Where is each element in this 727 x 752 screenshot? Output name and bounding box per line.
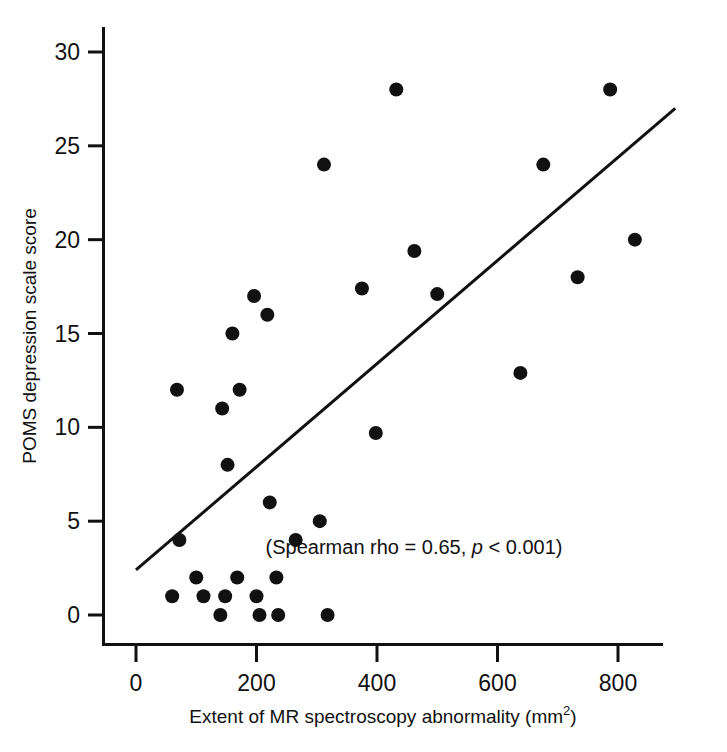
data-point <box>172 533 186 547</box>
data-point <box>317 158 331 172</box>
x-axis-title-main: Extent of MR spectroscopy abnormality (m… <box>189 706 563 727</box>
data-point <box>271 608 285 622</box>
data-point <box>355 281 369 295</box>
data-point <box>250 589 264 603</box>
data-point <box>369 426 383 440</box>
data-point <box>313 514 327 528</box>
data-point <box>389 83 403 97</box>
data-point <box>513 366 527 380</box>
x-tick-label-800: 800 <box>599 670 637 696</box>
x-tick-label-200: 200 <box>237 670 275 696</box>
data-point <box>269 570 283 584</box>
data-point <box>233 383 247 397</box>
data-point <box>165 589 179 603</box>
y-tick-label-0: 0 <box>67 602 80 628</box>
data-point <box>260 308 274 322</box>
figure-scatter-plot: 051015202530 0200400600800 Extent of MR … <box>0 0 727 752</box>
annotation-p-symbol: p <box>471 536 483 558</box>
y-axis-title: POMS depression scale score <box>19 208 40 464</box>
data-point <box>221 458 235 472</box>
x-axis-ticks <box>136 645 618 662</box>
trend-line <box>136 108 675 570</box>
y-tick-label-30: 30 <box>54 39 80 65</box>
data-point <box>430 287 444 301</box>
y-axis-ticks <box>88 52 103 615</box>
statistics-annotation: (Spearman rho = 0.65, p < 0.001) <box>266 536 563 558</box>
data-point <box>628 233 642 247</box>
data-point <box>170 383 184 397</box>
x-axis-tick-labels: 0200400600800 <box>130 670 638 696</box>
data-point <box>218 589 232 603</box>
data-point <box>213 608 227 622</box>
x-tick-label-600: 600 <box>478 670 516 696</box>
scatter-plot-canvas: 051015202530 0200400600800 Extent of MR … <box>0 0 727 752</box>
x-axis-title-superscript: 2 <box>563 703 570 718</box>
data-point <box>321 608 335 622</box>
data-point <box>225 327 239 341</box>
data-point <box>247 289 261 303</box>
data-point <box>571 270 585 284</box>
x-axis-title: Extent of MR spectroscopy abnormality (m… <box>189 703 576 727</box>
x-axis-title-tail: ) <box>570 706 576 727</box>
data-point <box>215 402 229 416</box>
data-point <box>230 570 244 584</box>
y-axis-tick-labels: 051015202530 <box>54 39 80 628</box>
y-tick-label-25: 25 <box>54 133 80 159</box>
data-point <box>407 244 421 258</box>
data-point <box>263 495 277 509</box>
data-point <box>603 83 617 97</box>
x-tick-label-0: 0 <box>130 670 143 696</box>
annotation-prefix: (Spearman rho = 0.65, <box>266 536 472 558</box>
y-tick-label-10: 10 <box>54 414 80 440</box>
data-point <box>196 589 210 603</box>
y-tick-label-5: 5 <box>67 508 80 534</box>
y-tick-label-20: 20 <box>54 227 80 253</box>
x-tick-label-400: 400 <box>358 670 396 696</box>
y-tick-label-15: 15 <box>54 321 80 347</box>
data-point <box>253 608 267 622</box>
data-point <box>189 570 203 584</box>
regression-trend-line <box>136 108 675 570</box>
data-point <box>536 158 550 172</box>
annotation-suffix: < 0.001) <box>483 536 563 558</box>
